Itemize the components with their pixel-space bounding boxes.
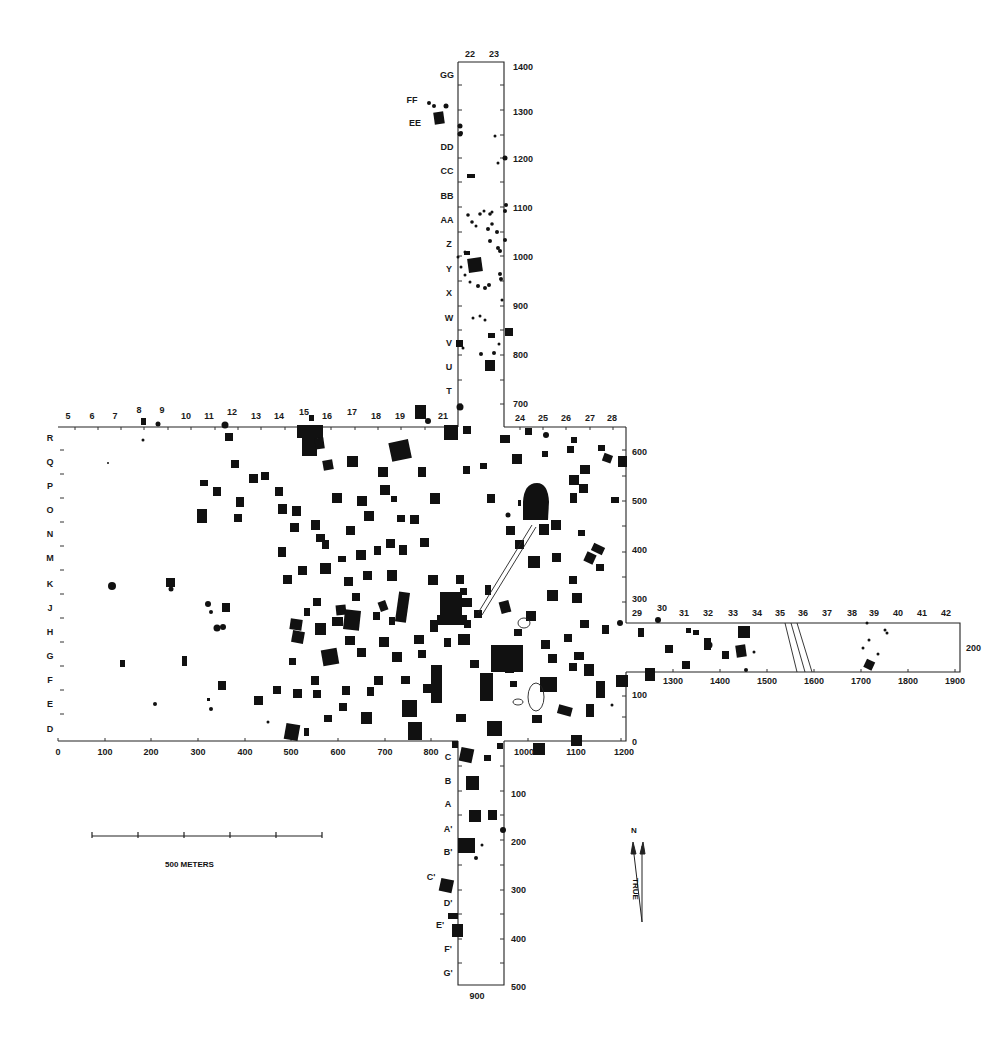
easting-tick: 200 [143,748,158,757]
grid-column-label: 31 [679,609,689,618]
grid-column-label: 23 [489,50,499,59]
grid-row-label: C' [427,873,436,882]
scale-bar [92,832,322,838]
grid-column-label: 7 [112,412,117,421]
ring-feature [518,618,530,628]
grid-row-label: BB [441,192,454,201]
easting-tick: 800 [423,748,438,757]
grid-column-label: 26 [561,414,571,423]
northing-tick: 500 [511,983,526,992]
grid-column-label: 27 [585,414,595,423]
grid-row-label: U [446,363,453,372]
structures [107,101,889,937]
northing-tick: 1100 [513,204,533,213]
grid-row-label: CC [441,167,454,176]
scale-bar-label: 500 METERS [165,860,214,869]
grid-row-label: Q [46,458,53,467]
northing-tick: 1400 [513,63,533,72]
grid-column-label: 11 [204,412,214,421]
grid-row-label: A [445,800,452,809]
south-arm-outline [458,741,504,985]
northing-tick: 200 [966,644,981,653]
easting-tick: 1200 [614,748,634,757]
northing-tick: 400 [511,935,526,944]
northing-tick: 300 [632,595,647,604]
grid-row-label: GG [440,71,454,80]
grid-row-label: J [47,604,52,613]
northing-tick: 0 [632,738,637,747]
grid-row-label: G' [443,969,452,978]
easting-tick: 1700 [851,677,871,686]
grid-column-label: 32 [703,609,713,618]
grid-column-label: 29 [632,609,642,618]
easting-tick: 1800 [898,677,918,686]
northing-tick: 300 [511,886,526,895]
grid-row-label: B' [444,848,453,857]
northing-tick: 200 [511,838,526,847]
easting-tick: 1900 [945,677,965,686]
easting-tick: 1400 [710,677,730,686]
grid-row-label: F' [444,945,452,954]
grid-column-label: 40 [893,609,903,618]
grid-column-label: 38 [847,609,857,618]
grid-column-label: 35 [775,609,785,618]
grid-column-label: 16 [322,412,332,421]
grid-row-label: FF [407,96,418,105]
grid-row-label: AA [441,216,454,225]
easting-tick: 300 [190,748,205,757]
grid-row-label: K [47,580,54,589]
grid-column-label: 8 [136,406,141,415]
northing-tick: 900 [513,302,528,311]
site-map: 22 23 GG FF EE DD CC BB AA Z Y X W V U T… [0,0,993,1039]
grid-row-label: N [47,530,54,539]
grid-column-label: 12 [227,408,237,417]
grid-row-label: C [445,753,452,762]
grid-row-label: Z [446,240,452,249]
northing-tick: 700 [513,400,528,409]
parallel-features-east-arm [785,623,812,672]
grid-row-label: Y [446,265,452,274]
north-arm-outline [458,62,504,427]
grid-row-label: EE [409,119,421,128]
easting-tick: 1000 [514,748,534,757]
grid-row-label: W [445,314,454,323]
easting-tick: 600 [330,748,345,757]
grid-row-label: R [47,434,54,443]
grid-row-label: V [446,339,452,348]
grid-column-label: 42 [941,609,951,618]
easting-tick: 400 [237,748,252,757]
north-arrow-magnetic-label: N [631,826,637,835]
northing-tick: 400 [632,546,647,555]
grid-column-label: 41 [917,609,927,618]
grid-column-label: 21 [438,412,448,421]
northing-tick: 1300 [513,108,533,117]
grid-row-label: F [47,676,53,685]
grid-column-label: 28 [607,414,617,423]
grid-column-label: 18 [371,412,381,421]
easting-tick: 1100 [566,748,586,757]
easting-tick: 0 [55,748,60,757]
easting-tick: 1500 [757,677,777,686]
northing-tick: 100 [632,691,647,700]
grid-column-label: 14 [274,412,284,421]
grid-column-label: 24 [515,414,525,423]
grid-row-label: E' [436,921,444,930]
small-oval-feature [513,699,523,705]
grid-column-label: 9 [159,406,164,415]
grid-column-label: 22 [465,50,475,59]
grid-row-label: E [47,700,53,709]
grid-row-label: A' [444,825,453,834]
grid-column-label: 5 [65,412,70,421]
northing-tick: 1200 [513,155,533,164]
oval-feature [528,683,544,711]
grid-row-label: D' [444,899,453,908]
grid-column-label: 15 [299,408,309,417]
grid-column-label: 25 [538,414,548,423]
grid-column-label: 13 [251,412,261,421]
easting-tick: 900 [469,992,484,1001]
grid-column-label: 33 [728,609,738,618]
grid-column-label: 37 [822,609,832,618]
grid-column-label: 34 [752,609,762,618]
grid-column-label: 39 [869,609,879,618]
easting-tick: 1600 [804,677,824,686]
